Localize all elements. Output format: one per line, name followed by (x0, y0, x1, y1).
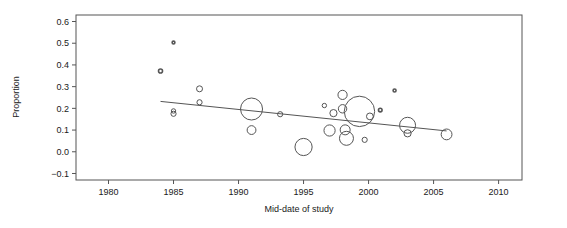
x-tick-label: 1995 (294, 187, 314, 197)
y-tick-label: 0.2 (56, 104, 69, 114)
y-tick-label: 0.3 (56, 82, 69, 92)
y-tick-label: 0.6 (56, 17, 69, 27)
y-tick-label: −0.1 (51, 169, 69, 179)
x-tick-label: 1990 (229, 187, 249, 197)
x-tick-label: 2005 (424, 187, 444, 197)
y-tick-label: 0.5 (56, 38, 69, 48)
x-tick-label: 1980 (98, 187, 118, 197)
y-tick-label: 0.1 (56, 125, 69, 135)
x-tick-label: 2000 (359, 187, 379, 197)
meta-regression-bubble-plot: −0.10.00.10.20.30.40.50.6 19801985199019… (0, 0, 567, 228)
x-tick-label: 1985 (164, 187, 184, 197)
y-tick-label: 0.0 (56, 147, 69, 157)
x-axis-title: Mid-date of study (264, 204, 334, 214)
y-axis-title: Proportion (11, 76, 21, 118)
x-tick-label: 2010 (489, 187, 509, 197)
plot-canvas: −0.10.00.10.20.30.40.50.6 19801985199019… (0, 0, 567, 228)
y-tick-label: 0.4 (56, 60, 69, 70)
